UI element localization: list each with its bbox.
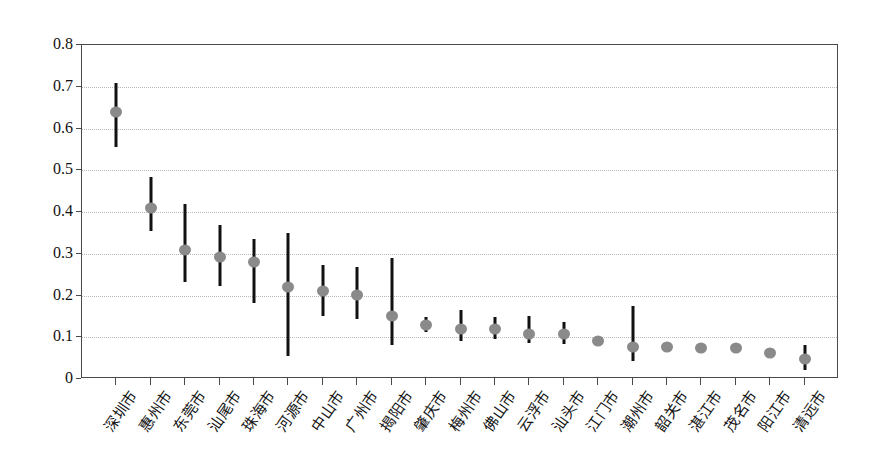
y-tick-mark	[76, 169, 81, 170]
data-series	[82, 45, 837, 377]
x-tick-label: 湛江市	[684, 386, 727, 435]
x-tick-label: 东莞市	[167, 386, 210, 435]
x-tick-label: 韶关市	[649, 386, 692, 435]
x-tick-label: 潮州市	[615, 386, 658, 435]
y-tick-label: 0.8	[29, 36, 73, 52]
data-point-marker	[455, 323, 467, 334]
y-tick-mark	[76, 44, 81, 45]
x-tick-label: 珠海市	[236, 386, 279, 435]
y-tick-label: 0.6	[29, 120, 73, 136]
x-tick-label: 广州市	[339, 386, 382, 435]
data-point-marker	[799, 353, 811, 364]
x-tick-label: 汕头市	[546, 386, 589, 435]
x-tick-label: 梅州市	[443, 386, 486, 435]
x-tick-label: 揭阳市	[374, 386, 417, 435]
x-tick-label: 江门市	[580, 386, 623, 435]
data-point-marker	[489, 323, 501, 334]
y-tick-mark	[76, 378, 81, 379]
y-tick-mark	[76, 336, 81, 337]
data-point-marker	[317, 286, 329, 297]
data-point-marker	[248, 257, 260, 268]
x-tick-label: 中山市	[305, 386, 348, 435]
x-tick-label: 肇庆市	[408, 386, 451, 435]
data-point-marker	[179, 244, 191, 255]
x-tick-label: 深圳市	[99, 386, 142, 435]
x-tick-label: 汕尾市	[202, 386, 245, 435]
data-point-marker	[764, 347, 776, 358]
data-point-marker	[661, 341, 673, 352]
y-tick-mark	[76, 128, 81, 129]
y-tick-label: 0.7	[29, 78, 73, 94]
y-tick-mark	[76, 295, 81, 296]
y-tick-label: 0.1	[29, 328, 73, 344]
y-tick-mark	[76, 253, 81, 254]
data-point-marker	[282, 282, 294, 293]
y-tick-label: 0.5	[29, 161, 73, 177]
y-tick-mark	[76, 86, 81, 87]
data-point-marker	[214, 252, 226, 263]
error-bar	[287, 233, 290, 356]
x-tick-label: 河源市	[271, 386, 314, 435]
y-tick-label: 0.3	[29, 245, 73, 261]
y-tick-label: 0	[29, 370, 73, 386]
x-tick-label: 清远市	[787, 386, 830, 435]
error-bar	[631, 306, 634, 361]
data-point-marker	[420, 319, 432, 330]
data-point-marker	[523, 328, 535, 339]
data-point-marker	[110, 106, 122, 117]
x-axis-labels: 深圳市惠州市东莞市汕尾市珠海市河源市中山市广州市揭阳市肇庆市梅州市佛山市云浮市汕…	[81, 384, 838, 470]
error-bar	[253, 239, 256, 303]
x-tick-label: 惠州市	[133, 386, 176, 435]
y-tick-label: 0.4	[29, 203, 73, 219]
x-tick-label: 阳江市	[752, 386, 795, 435]
y-tick-label: 0.2	[29, 287, 73, 303]
error-bar	[390, 258, 393, 345]
data-point-marker	[145, 202, 157, 213]
x-tick-label: 佛山市	[477, 386, 520, 435]
data-point-marker	[627, 341, 639, 352]
data-point-marker	[730, 342, 742, 353]
chart-container: 00.10.20.30.40.50.60.70.8 深圳市惠州市东莞市汕尾市珠海…	[0, 0, 869, 470]
data-point-marker	[386, 311, 398, 322]
data-point-marker	[592, 336, 604, 347]
x-tick-label: 茂名市	[718, 386, 761, 435]
y-tick-mark	[76, 211, 81, 212]
data-point-marker	[351, 289, 363, 300]
data-point-marker	[695, 342, 707, 353]
plot-area	[81, 44, 838, 378]
data-point-marker	[558, 328, 570, 339]
x-tick-label: 云浮市	[512, 386, 555, 435]
